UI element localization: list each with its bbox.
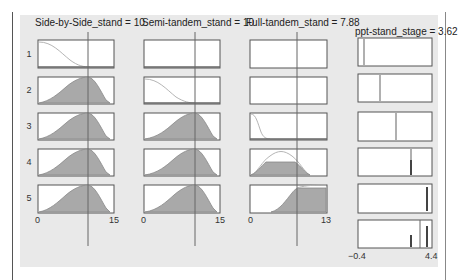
- x-tick-col1-max: 15: [109, 215, 119, 225]
- x-tick-col3-max: 13: [321, 215, 331, 225]
- marker-ppt-row2: [379, 75, 381, 101]
- box-ppt-row2: [358, 74, 432, 102]
- box-col3-row2: [250, 77, 327, 104]
- x-tick-ppt-min: −0.4: [348, 251, 366, 261]
- box-col3-row3: [250, 113, 327, 140]
- box-ppt-row5: [358, 184, 432, 213]
- marker-ppt-row1: [363, 39, 365, 65]
- marker-ppt-row5: [426, 187, 428, 211]
- x-tick-col1-min: 0: [35, 215, 40, 225]
- marker-ppt-row4-dark: [410, 160, 412, 175]
- x-tick-col3-min: 0: [248, 215, 253, 225]
- box-col2-row1: [144, 40, 220, 68]
- box-ppt-row6: [358, 220, 432, 248]
- marker-ppt-row4-light: [410, 149, 412, 160]
- x-tick-ppt-max: 4.4: [425, 251, 438, 261]
- marker-ppt-row6-a: [410, 235, 412, 247]
- x-tick-col2-max: 15: [215, 215, 225, 225]
- box-ppt-row4: [358, 148, 432, 176]
- x-tick-col2-min: 0: [141, 215, 146, 225]
- column-semi-tandem: [144, 32, 220, 246]
- column-full-tandem: [250, 32, 327, 246]
- marker-ppt-row6-b: [426, 226, 428, 247]
- box-ppt-row1: [358, 38, 432, 66]
- column-ppt-stand-stage: [358, 38, 432, 248]
- column-side-by-side: [38, 32, 114, 246]
- marker-ppt-row3: [395, 113, 397, 140]
- box-col3-row1: [250, 40, 327, 68]
